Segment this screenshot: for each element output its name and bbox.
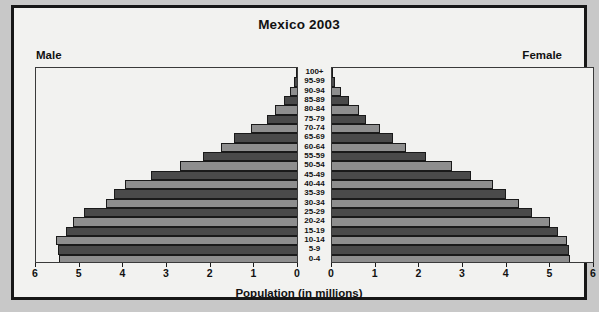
screenshot-frame: Mexico 2003 Male Female 100+95-9990-9485…: [0, 0, 599, 312]
female-bar-90-94: [332, 87, 341, 96]
age-label-0-4: 0-4: [298, 254, 331, 263]
female-bar-20-24: [332, 217, 550, 226]
age-label-55-59: 55-59: [298, 151, 331, 160]
bar-row: [332, 133, 593, 142]
axis-tick-label: 2: [207, 267, 213, 279]
age-label-20-24: 20-24: [298, 216, 331, 225]
bar-row: [36, 208, 297, 217]
female-bar-35-39: [332, 189, 506, 198]
female-bar-80-84: [332, 105, 359, 114]
axis-tick-label: 4: [119, 267, 125, 279]
bar-row: [36, 77, 297, 86]
bar-row: [332, 87, 593, 96]
age-label-95-99: 95-99: [298, 76, 331, 85]
age-label-80-84: 80-84: [298, 104, 331, 113]
female-bar-25-29: [332, 208, 532, 217]
female-bar-60-64: [332, 143, 406, 152]
female-bar-40-44: [332, 180, 493, 189]
male-bar-25-29: [84, 208, 297, 217]
age-label-15-19: 15-19: [298, 226, 331, 235]
male-bar-95-99: [294, 77, 297, 86]
age-label-90-94: 90-94: [298, 86, 331, 95]
male-x-axis: 6543210: [35, 263, 298, 285]
x-axis-label: Population (in millions): [14, 287, 584, 299]
bar-row: [332, 217, 593, 226]
male-bar-10-14: [56, 236, 297, 245]
chart-title: Mexico 2003: [14, 17, 584, 32]
female-bar-5-9: [332, 245, 569, 254]
male-bar-50-54: [180, 161, 297, 170]
bar-row: [332, 189, 593, 198]
bar-row: [36, 199, 297, 208]
axis-tick-label: 1: [372, 267, 378, 279]
age-label-40-44: 40-44: [298, 179, 331, 188]
age-label-45-49: 45-49: [298, 170, 331, 179]
age-label-30-34: 30-34: [298, 198, 331, 207]
age-label-25-29: 25-29: [298, 207, 331, 216]
male-bar-0-4: [59, 255, 297, 263]
bar-row: [36, 152, 297, 161]
female-bar-85-89: [332, 96, 349, 105]
bar-row: [36, 133, 297, 142]
bar-row: [332, 255, 593, 263]
male-bar-65-69: [234, 133, 297, 142]
male-bar-75-79: [267, 115, 297, 124]
age-label-35-39: 35-39: [298, 188, 331, 197]
bar-row: [332, 236, 593, 245]
female-bar-45-49: [332, 171, 471, 180]
male-side-label: Male: [36, 49, 62, 61]
bar-row: [332, 180, 593, 189]
bar-row: [36, 143, 297, 152]
male-bar-85-89: [284, 96, 297, 105]
female-bar-95-99: [332, 77, 335, 86]
age-label-65-69: 65-69: [298, 132, 331, 141]
male-bar-55-59: [203, 152, 297, 161]
age-label-50-54: 50-54: [298, 160, 331, 169]
female-bar-75-79: [332, 115, 366, 124]
female-bar-70-74: [332, 124, 380, 133]
chart-card: Mexico 2003 Male Female 100+95-9990-9485…: [11, 5, 587, 300]
male-bar-80-84: [275, 105, 297, 114]
female-bar-55-59: [332, 152, 426, 161]
female-bar-10-14: [332, 236, 567, 245]
male-bar-5-9: [58, 245, 297, 254]
axis-tick-label: 3: [459, 267, 465, 279]
female-side-label: Female: [522, 49, 562, 61]
bar-row: [36, 236, 297, 245]
axis-tick-label: 6: [590, 267, 596, 279]
male-bar-100+: [296, 68, 297, 77]
axis-tick-label: 5: [76, 267, 82, 279]
male-plot-panel: [35, 67, 298, 263]
female-bar-65-69: [332, 133, 393, 142]
bar-row: [36, 105, 297, 114]
bar-row: [332, 227, 593, 236]
male-bar-70-74: [251, 124, 297, 133]
female-bar-0-4: [332, 255, 570, 263]
bar-row: [36, 171, 297, 180]
male-bar-30-34: [106, 199, 297, 208]
female-bar-15-19: [332, 227, 558, 236]
female-plot-panel: [331, 67, 594, 263]
age-label-70-74: 70-74: [298, 123, 331, 132]
bar-row: [36, 189, 297, 198]
female-bar-rows: [332, 68, 593, 262]
age-label-100+: 100+: [298, 67, 331, 76]
bar-row: [332, 115, 593, 124]
axis-tick-label: 5: [546, 267, 552, 279]
male-bar-45-49: [151, 171, 297, 180]
bar-row: [332, 143, 593, 152]
bar-row: [332, 68, 593, 77]
bar-row: [36, 161, 297, 170]
age-group-axis: 100+95-9990-9485-8980-8475-7970-7465-696…: [298, 67, 331, 263]
bar-row: [36, 115, 297, 124]
bar-row: [36, 217, 297, 226]
axis-tick-label: 2: [415, 267, 421, 279]
male-bar-90-94: [290, 87, 297, 96]
bar-row: [36, 180, 297, 189]
bar-row: [36, 245, 297, 254]
axis-tick-label: 0: [328, 267, 334, 279]
bar-row: [36, 255, 297, 263]
age-label-85-89: 85-89: [298, 95, 331, 104]
female-bar-100+: [332, 68, 333, 77]
female-x-axis: 0123456: [331, 263, 594, 285]
